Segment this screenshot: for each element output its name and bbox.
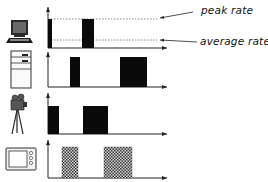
television-icon: [6, 148, 36, 170]
burst-bar: [70, 57, 80, 87]
burst-bar: [48, 106, 59, 134]
row-computer: [6, 7, 197, 48]
hatched-burst-bar: [62, 147, 78, 178]
row-server: [11, 51, 167, 88]
traffic-diagram: [0, 0, 268, 182]
film-camera-icon: [11, 94, 27, 134]
computer-terminal-icon: [6, 20, 33, 43]
row-television: [6, 140, 167, 178]
average-rate-arrow: [160, 40, 197, 42]
burst-bar: [48, 19, 52, 48]
peak-rate-arrow: [160, 12, 193, 18]
hatched-burst-bar: [104, 147, 132, 178]
burst-bar: [120, 57, 147, 87]
average-rate-label: average rate: [200, 35, 268, 47]
burst-bar: [83, 106, 108, 134]
row-camera: [11, 93, 167, 134]
server-tower-icon: [11, 51, 31, 88]
burst-bar: [82, 19, 94, 48]
peak-rate-label: peak rate: [201, 4, 253, 16]
